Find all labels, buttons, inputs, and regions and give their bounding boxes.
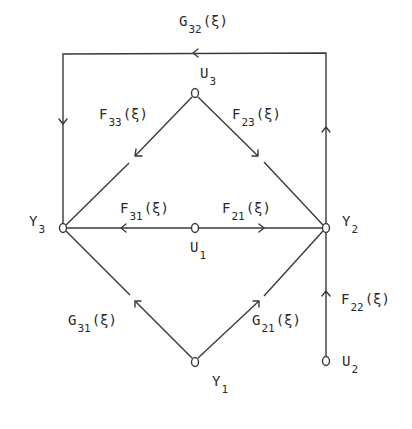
label-f23: F23(ξ)	[232, 107, 281, 121]
node-y1	[192, 358, 199, 367]
edge-f23-lower	[264, 162, 323, 225]
node-u2	[323, 357, 330, 366]
label-node-u1: U1	[190, 240, 207, 254]
label-g32: G32(ξ)	[179, 14, 228, 28]
label-g31: G31(ξ)	[68, 313, 117, 327]
label-node-y1: Y1	[212, 374, 229, 388]
label-node-y2: Y2	[342, 214, 359, 228]
signal-flow-diagram: G32(ξ) F33(ξ) F23(ξ) F31(ξ) F21(ξ) G31(ξ…	[0, 0, 412, 429]
edge-g21-lower	[198, 301, 259, 358]
node-u1	[192, 224, 199, 233]
edge-g31-upper	[66, 231, 130, 295]
node-y2	[323, 224, 330, 233]
label-node-u3: U3	[200, 66, 217, 80]
edge-g32	[63, 53, 326, 224]
edge-g21-upper	[264, 231, 323, 296]
edge-g31-lower	[135, 301, 192, 358]
label-f21: F21(ξ)	[222, 201, 271, 215]
label-f22: F22(ξ)	[341, 292, 390, 306]
label-g21: G21(ξ)	[252, 313, 301, 327]
node-u3	[192, 89, 199, 98]
label-node-u2: U2	[342, 354, 359, 368]
node-y3	[60, 224, 67, 233]
label-node-y3: Y3	[29, 214, 46, 228]
label-f31: F31(ξ)	[120, 201, 169, 215]
label-f33: F33(ξ)	[99, 107, 148, 121]
